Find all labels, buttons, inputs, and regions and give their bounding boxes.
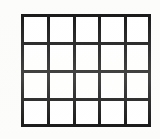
grid-cell-r2-c3: [101, 73, 124, 98]
grid-cell-r1-c3: [101, 45, 124, 70]
grid-cell-r1-c0: [24, 45, 47, 70]
grid-cell-r1-c1: [50, 45, 73, 70]
grid-cell-r1-c2: [76, 45, 98, 70]
grid-cell-r0-c1: [50, 17, 73, 42]
grid-cell-r3-c1: [50, 101, 73, 126]
grid-cell-r2-c2: [76, 73, 98, 98]
grid-cell-r2-c0: [24, 73, 47, 98]
grid-cell-r0-c3: [101, 17, 124, 42]
page-canvas: [0, 0, 160, 139]
grid-cell-r0-c2: [76, 17, 98, 42]
grid-cell-r2-c1: [50, 73, 73, 98]
grid-cell-r0-c4: [127, 17, 150, 42]
grid-cell-r3-c4: [127, 101, 150, 126]
grid-cell-r3-c2: [76, 101, 98, 126]
grid-cell-r2-c4: [127, 73, 150, 98]
grid-figure: [21, 14, 151, 127]
grid-cell-r1-c4: [127, 45, 150, 70]
grid-cell-r3-c3: [101, 101, 124, 126]
grid-cell-r3-c0: [24, 101, 47, 126]
grid-cell-r0-c0: [24, 17, 47, 42]
